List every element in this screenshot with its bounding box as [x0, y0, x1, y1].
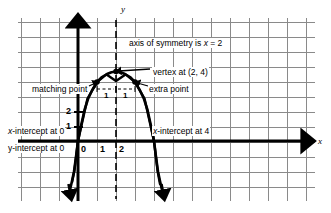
x-axis-label: x	[318, 136, 322, 146]
y-tick-2: 2	[66, 106, 71, 116]
extra-point-dot	[132, 79, 138, 85]
y-intercept-label: y-intercept at 0	[7, 143, 65, 153]
x-intercept-right-label: x-intercept at 4	[152, 126, 210, 136]
vertex-point	[113, 69, 119, 75]
x-tick-0: 0	[81, 144, 86, 154]
unit-label-left: 1	[104, 91, 108, 100]
axis-of-symmetry-label: axis of symmetry is x = 2	[128, 38, 223, 48]
matching-point-dot	[94, 79, 100, 85]
x-tick-1: 1	[100, 144, 105, 154]
unit-label-right: 1	[123, 91, 127, 100]
x-tick-2: 2	[119, 144, 124, 154]
x-intercept-left-label: x-intercept at 0	[7, 126, 65, 136]
y-axis-label: y	[121, 4, 125, 14]
parabola-graph-figure: y x 0 1 2 1 2 1 1 axis of symmetry is x …	[0, 0, 331, 213]
matching-point-label: matching point	[31, 84, 88, 94]
vertex-label: vertex at (2, 4)	[152, 67, 209, 77]
graph-curves-and-axes	[0, 0, 331, 213]
unit-measure-brackets	[97, 86, 135, 92]
y-tick-1: 1	[66, 121, 71, 131]
extra-point-label: extra point	[148, 84, 190, 94]
